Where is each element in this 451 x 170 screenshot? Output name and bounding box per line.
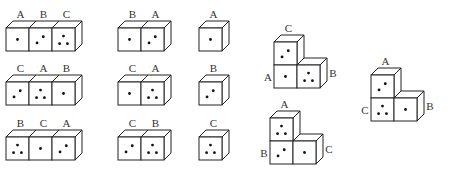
- cube-label: C: [17, 62, 24, 74]
- pip: [303, 79, 306, 82]
- pip: [284, 75, 287, 78]
- pip: [378, 89, 381, 92]
- cube-face: [118, 137, 141, 160]
- cube-label: A: [210, 8, 218, 20]
- pip: [19, 89, 22, 92]
- pip: [128, 38, 131, 41]
- cube-label: B: [17, 117, 24, 129]
- pip: [58, 42, 61, 45]
- pip: [209, 38, 212, 41]
- top-label: A: [281, 98, 289, 110]
- right-label: B: [329, 67, 336, 79]
- cube-label: A: [63, 117, 71, 129]
- pip: [155, 151, 158, 154]
- dice-strip-r1-c3: A: [199, 8, 229, 51]
- pip: [62, 35, 65, 38]
- pip: [13, 96, 16, 99]
- cube-label: B: [210, 62, 217, 74]
- cube-label: C: [129, 62, 136, 74]
- pip: [16, 144, 19, 147]
- pip: [281, 56, 284, 59]
- dice-strip-r3-c2: CB: [118, 117, 171, 160]
- pip: [65, 144, 68, 147]
- cube-label: C: [129, 117, 136, 129]
- dice-strip-r3-c1: BCA: [6, 117, 82, 160]
- top-label: A: [382, 55, 390, 67]
- pip: [125, 151, 128, 154]
- pip: [287, 49, 290, 52]
- pip: [43, 96, 46, 99]
- cube-label: B: [129, 8, 136, 20]
- pip: [381, 105, 384, 108]
- left-label: C: [361, 104, 368, 116]
- dice-diagram: ABCBAACABCABBCACBCCABABCACB: [0, 0, 451, 170]
- pip: [212, 89, 215, 92]
- right-label: C: [325, 143, 332, 155]
- pip: [147, 96, 150, 99]
- cube-label: C: [63, 8, 70, 20]
- dice-strip-r2-c2: CA: [118, 62, 171, 105]
- cube-face: [199, 137, 222, 160]
- pip: [20, 151, 23, 154]
- pip: [209, 144, 212, 147]
- pip: [303, 151, 306, 154]
- pip: [12, 151, 15, 154]
- pip: [148, 42, 151, 45]
- cube-label: A: [152, 62, 160, 74]
- pip: [155, 96, 158, 99]
- cube-label: C: [40, 117, 47, 129]
- pip: [151, 89, 154, 92]
- cube-face: [29, 28, 52, 51]
- cube-label: A: [40, 62, 48, 74]
- pip: [284, 132, 287, 135]
- left-label: A: [264, 71, 272, 83]
- pip: [276, 132, 279, 135]
- right-label: B: [426, 100, 433, 112]
- pip: [377, 112, 380, 115]
- cube-label: A: [17, 8, 25, 20]
- dice-strip-r3-c3: C: [199, 117, 229, 160]
- pip: [131, 144, 134, 147]
- cube-face: [199, 82, 222, 105]
- pip: [385, 112, 388, 115]
- l-shape-1: CAB: [264, 22, 337, 88]
- cube-face: [141, 28, 164, 51]
- dice-strip-r2-c3: B: [199, 62, 229, 105]
- pip: [36, 42, 39, 45]
- pip: [151, 144, 154, 147]
- pip: [404, 108, 407, 111]
- pip: [35, 96, 38, 99]
- pip: [16, 38, 19, 41]
- cube-face: [52, 28, 75, 51]
- left-label: B: [260, 147, 267, 159]
- pip: [128, 92, 131, 95]
- cube-face: [141, 82, 164, 105]
- cube-top: [6, 130, 82, 137]
- pip: [39, 147, 42, 150]
- cube-label: C: [210, 117, 217, 129]
- pip: [307, 72, 310, 75]
- pip: [283, 148, 286, 151]
- pip: [384, 82, 387, 85]
- pip: [280, 125, 283, 128]
- cube-label: A: [152, 8, 160, 20]
- pip: [59, 151, 62, 154]
- pip: [206, 96, 209, 99]
- cube-top: [6, 75, 82, 82]
- l-shape-2: ABC: [260, 98, 332, 164]
- pip: [62, 92, 65, 95]
- cube-face: [6, 137, 29, 160]
- l-shape-3: ACB: [361, 55, 433, 121]
- pip: [311, 79, 314, 82]
- cube-face: [6, 82, 29, 105]
- pip: [154, 35, 157, 38]
- pip: [147, 151, 150, 154]
- dice-strip-r2-c1: CAB: [6, 62, 82, 105]
- cube-label: B: [40, 8, 47, 20]
- dice-strip-r1-c2: BA: [118, 8, 171, 51]
- top-label: C: [285, 22, 292, 34]
- cube-face: [29, 82, 52, 105]
- dice-strip-r1-c1: ABC: [6, 8, 82, 51]
- pip: [39, 89, 42, 92]
- pip: [42, 35, 45, 38]
